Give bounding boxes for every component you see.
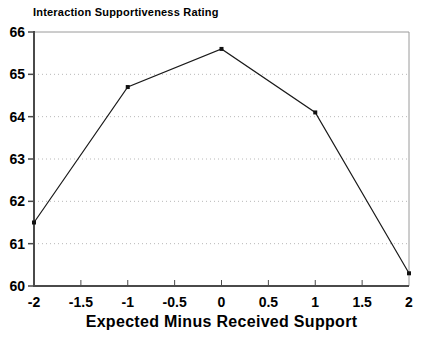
y-tick-label: 64 <box>9 109 25 125</box>
data-point <box>220 47 224 51</box>
y-tick-label: 66 <box>9 24 25 40</box>
data-point <box>32 221 36 225</box>
plot-area: 60616263646566-2-1.5-1-0.500.511.52 <box>0 0 422 347</box>
x-tick-label: 0 <box>218 294 226 310</box>
data-point <box>407 271 411 275</box>
x-axis-title: Expected Minus Received Support <box>34 313 409 331</box>
supportiveness-line-chart: Interaction Supportiveness Rating 606162… <box>0 0 422 347</box>
y-tick-label: 61 <box>9 236 25 252</box>
y-tick-label: 65 <box>9 66 25 82</box>
x-tick-label: 2 <box>405 294 413 310</box>
x-tick-label: -2 <box>28 294 41 310</box>
y-tick-label: 62 <box>9 193 25 209</box>
x-tick-label: 1 <box>311 294 319 310</box>
x-tick-label: -1 <box>122 294 135 310</box>
y-tick-label: 63 <box>9 151 25 167</box>
x-tick-label: 1.5 <box>352 294 372 310</box>
x-tick-label: -1.5 <box>69 294 93 310</box>
data-point <box>126 85 130 89</box>
data-point <box>313 110 317 114</box>
x-tick-label: 0.5 <box>259 294 279 310</box>
x-tick-label: -0.5 <box>163 294 187 310</box>
y-tick-label: 60 <box>9 278 25 294</box>
data-line <box>34 49 409 273</box>
